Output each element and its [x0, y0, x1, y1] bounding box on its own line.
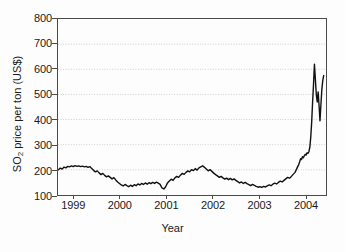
x-axis-title: Year	[0, 222, 345, 234]
y-tick-label: 500	[0, 88, 52, 100]
so2-price-chart: 100200300400500600700800 SO2 price per t…	[0, 0, 345, 252]
x-tick-mark	[212, 195, 213, 199]
y-axis-title: SO2 price per ton (US$)	[11, 34, 25, 194]
x-tick-label: 2003	[247, 199, 271, 211]
x-tick-label: 2000	[108, 199, 132, 211]
x-tick-mark	[119, 195, 120, 199]
x-tick-mark	[306, 195, 307, 199]
x-tick-mark	[166, 195, 167, 199]
y-tick-label: 800	[0, 12, 52, 24]
y-tick-label: 200	[0, 165, 52, 177]
y-tick-label: 700	[0, 37, 52, 49]
x-axis-tick-labels: 199920002001200220032004	[0, 199, 345, 217]
x-tick-label: 2004	[294, 199, 318, 211]
x-tick-mark	[73, 195, 74, 199]
y-tick-label: 300	[0, 139, 52, 151]
x-tick-label: 2002	[201, 199, 225, 211]
y-tick-label: 600	[0, 63, 52, 75]
plot-area	[57, 18, 327, 196]
data-series-line	[58, 64, 323, 189]
x-tick-label: 2001	[154, 199, 178, 211]
x-tick-mark	[259, 195, 260, 199]
x-tick-label: 1999	[61, 199, 85, 211]
y-tick-label: 400	[0, 114, 52, 126]
plot-svg	[58, 19, 326, 195]
